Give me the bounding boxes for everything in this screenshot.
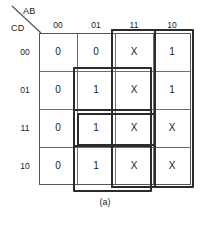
column-header-0: 00 — [39, 19, 77, 31]
kmap-cell: 0 — [39, 71, 77, 109]
kmap-group-column-11 — [111, 29, 156, 188]
row-header-1: 01 — [13, 71, 37, 109]
row-variable-label: CD — [11, 23, 24, 33]
kmap-grid: 0 0 X 1 0 1 X 1 0 1 X X 0 1 X X — [39, 33, 191, 185]
kmap-cell: 0 — [39, 33, 77, 71]
karnaugh-map-figure: AB CD 00 01 11 10 00 01 11 10 0 0 X 1 0 … — [0, 0, 210, 225]
kmap-cell: 0 — [39, 147, 77, 185]
row-header-0: 00 — [13, 33, 37, 71]
column-header-1: 01 — [77, 19, 115, 31]
kmap-cell: 0 — [39, 109, 77, 147]
column-variable-label: AB — [23, 6, 35, 16]
row-header-3: 10 — [13, 147, 37, 185]
kmap-cell: 0 — [77, 33, 115, 71]
row-header-2: 11 — [13, 109, 37, 147]
figure-caption: (a) — [0, 197, 210, 207]
